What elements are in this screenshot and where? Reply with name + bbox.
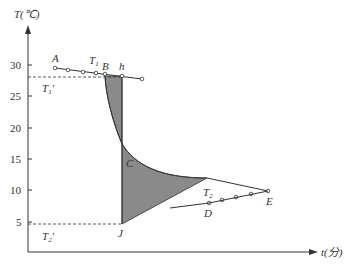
point-a-label: A [51,52,59,64]
y-tick-30: 30 [10,59,22,71]
line-d-to-e-segment [209,191,268,203]
temperature-time-diagram: 30 25 20 15 10 5 T(℃) t(分) A B h C J D [0,0,351,265]
t1-label: T1 [89,54,99,68]
y-tick-5: 5 [16,216,22,228]
t2-prime-label: T2' [42,230,55,244]
point-d-label: D [203,207,212,219]
x-axis-label: t(分) [321,246,343,259]
y-tick-20: 20 [10,122,22,134]
y-axis-arrow-icon [25,25,31,34]
y-tick-15: 15 [10,153,22,165]
point-b-label: B [102,60,109,72]
y-tick-10: 10 [10,184,22,196]
point-e-label: E [265,195,273,207]
y-ticks [28,65,32,222]
x-axis-arrow-icon [309,249,318,255]
line-d-to-e [207,178,268,191]
point-c-label: C [126,157,134,169]
t2-label: T2 [203,186,213,200]
point-h-label: h [119,60,125,72]
y-axis-label: T(℃) [14,8,40,21]
point-j-label: J [118,227,124,239]
y-tick-25: 25 [10,90,22,102]
t1-prime-label: T1' [42,82,55,96]
shaded-region-lower [122,144,207,224]
shaded-region-upper [105,76,122,144]
